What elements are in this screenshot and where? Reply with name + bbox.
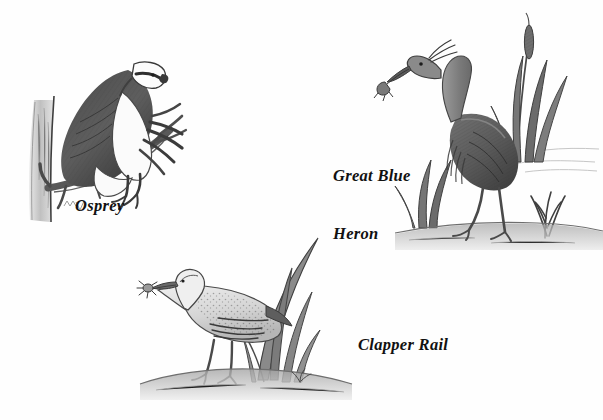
osprey-bird-icon — [61, 62, 182, 209]
label-great-blue-heron-line1: Great Blue — [333, 166, 411, 185]
prey-in-bill-icon — [374, 82, 393, 101]
label-clapper-rail: Clapper Rail — [358, 335, 448, 354]
tree-trunk-icon — [29, 96, 54, 222]
clapper-rail-drawing — [140, 232, 355, 402]
label-osprey: Osprey — [75, 196, 124, 215]
label-great-blue-heron-line2: Heron — [333, 224, 411, 243]
label-great-blue-heron: Great Blue Heron — [333, 127, 411, 283]
figure-clapper-rail — [140, 232, 355, 402]
crab-prey-icon — [137, 281, 157, 298]
heron-drawing — [395, 12, 603, 252]
mudflat-ground — [140, 369, 352, 400]
illustration-plate: Osprey Great Blue Heron Clapper Rail — [0, 0, 603, 420]
figure-great-blue-heron — [395, 12, 603, 252]
